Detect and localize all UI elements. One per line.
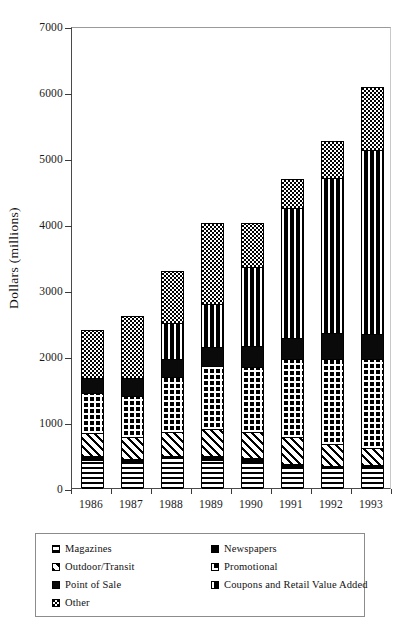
bar-segment xyxy=(282,339,303,360)
x-axis-tick-mark xyxy=(391,489,392,494)
y-axis-tick-label: 2000 xyxy=(39,351,63,363)
y-axis-tick-label: 6000 xyxy=(39,87,63,99)
bar-segment xyxy=(242,368,263,433)
bar-segment xyxy=(122,317,143,379)
legend-item: Coupons and Retail Value Added xyxy=(211,579,368,590)
bar-segment xyxy=(362,360,383,450)
legend-swatch-icon xyxy=(211,563,219,571)
stacked-bar xyxy=(321,141,344,488)
bar-segment xyxy=(362,449,383,466)
y-axis-tick-mark xyxy=(65,160,72,161)
y-axis-tick-mark xyxy=(65,226,72,227)
bar-segment xyxy=(242,433,263,459)
stacked-bar xyxy=(241,223,264,488)
bar-segment xyxy=(282,438,303,466)
bar-segment xyxy=(282,180,303,209)
legend-swatch-icon xyxy=(211,545,219,553)
bar-segment xyxy=(362,151,383,334)
bar-segment xyxy=(282,209,303,339)
legend-swatch-icon xyxy=(52,545,60,553)
x-axis-tick-mark xyxy=(191,489,192,494)
bar-segment xyxy=(282,468,303,489)
legend-item-label: Other xyxy=(65,597,90,608)
plot-area: 01000200030004000500060007000 xyxy=(71,27,391,489)
x-axis-tick-mark xyxy=(71,489,72,494)
figure-stacked-bar-chart: Dollars (millions) 010002000300040005000… xyxy=(0,0,399,640)
bar-segment xyxy=(162,360,183,378)
bar-series-container xyxy=(72,28,390,488)
bar-segment xyxy=(122,379,143,396)
bar-segment xyxy=(362,469,383,489)
bar-segment xyxy=(82,394,103,434)
y-axis-title: Dollars (millions) xyxy=(6,27,26,489)
bar-segment xyxy=(162,378,183,433)
legend-items: MagazinesNewspapersOutdoor/TransitPromot… xyxy=(36,534,364,616)
bar-segment xyxy=(162,272,183,324)
bar-segment xyxy=(82,461,103,489)
legend-item-label: Newspapers xyxy=(224,543,277,554)
bar-segment xyxy=(362,88,383,151)
legend-item-label: Promotional xyxy=(224,561,278,572)
bar-segment xyxy=(162,459,183,489)
bar-segment xyxy=(282,360,303,437)
legend-item-label: Coupons and Retail Value Added xyxy=(224,579,368,590)
y-axis-tick-mark xyxy=(65,94,72,95)
legend-item: Promotional xyxy=(211,561,278,572)
x-axis-tick-mark xyxy=(151,489,152,494)
y-axis-tick-mark xyxy=(65,28,72,29)
legend-swatch-icon xyxy=(52,599,60,607)
bar-segment xyxy=(322,360,343,444)
y-axis-tick-label: 1000 xyxy=(39,417,63,429)
y-axis-tick-mark xyxy=(65,424,72,425)
x-axis-tick-mark xyxy=(271,489,272,494)
bar-segment xyxy=(82,434,103,458)
bar-segment xyxy=(322,445,343,467)
stacked-bar xyxy=(161,271,184,488)
bar-segment xyxy=(122,438,143,460)
bar-segment xyxy=(202,461,223,489)
legend-swatch-icon xyxy=(211,581,219,589)
y-axis-tick-label: 0 xyxy=(57,483,63,495)
bar-segment xyxy=(322,469,343,489)
legend-item: Outdoor/Transit xyxy=(52,561,135,572)
legend-swatch-icon xyxy=(52,563,60,571)
x-axis-tick-mark xyxy=(311,489,312,494)
bar-segment xyxy=(82,331,103,379)
y-axis-tick-mark xyxy=(65,292,72,293)
x-axis-tick-mark xyxy=(111,489,112,494)
bar-segment xyxy=(322,334,343,360)
bar-segment xyxy=(322,142,343,179)
legend-item-label: Magazines xyxy=(65,543,112,554)
y-axis-tick-label: 5000 xyxy=(39,153,63,165)
bar-segment xyxy=(122,397,143,438)
legend-swatch-icon xyxy=(52,581,60,589)
bar-segment xyxy=(242,347,263,368)
figure-caption xyxy=(24,630,374,640)
bar-segment xyxy=(162,433,183,457)
x-axis-tick-label: 1993 xyxy=(348,498,394,510)
bar-segment xyxy=(202,430,223,458)
bar-segment xyxy=(202,348,223,366)
legend-item: Magazines xyxy=(52,543,112,554)
x-axis-tick-mark xyxy=(351,489,352,494)
x-axis: 19861987198819891990199119921993 xyxy=(71,489,391,523)
y-axis-tick-label: 7000 xyxy=(39,21,63,33)
bar-segment xyxy=(202,224,223,305)
bar-segment xyxy=(202,367,223,430)
legend-item: Newspapers xyxy=(211,543,277,554)
bar-segment xyxy=(322,179,343,334)
stacked-bar xyxy=(201,223,224,488)
legend-item: Other xyxy=(52,597,90,608)
x-axis-tick-mark xyxy=(231,489,232,494)
y-axis-tick-label: 3000 xyxy=(39,285,63,297)
y-axis-tick-label: 4000 xyxy=(39,219,63,231)
bar-segment xyxy=(122,463,143,489)
bar-segment xyxy=(242,463,263,489)
bar-segment xyxy=(82,379,103,394)
bar-segment xyxy=(362,335,383,360)
bar-segment xyxy=(242,268,263,347)
legend-item: Point of Sale xyxy=(52,579,121,590)
legend-box: MagazinesNewspapersOutdoor/TransitPromot… xyxy=(35,533,365,617)
y-axis-tick-mark xyxy=(65,358,72,359)
bar-segment xyxy=(162,324,183,360)
